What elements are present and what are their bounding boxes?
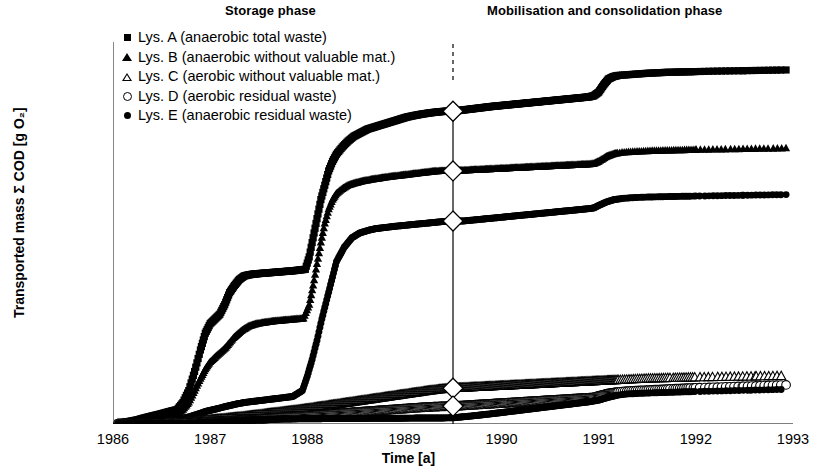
x-axis-title: Time [a] xyxy=(0,450,817,466)
mobilisation-phase-label: Mobilisation and consolidation phase xyxy=(487,3,722,18)
y-axis-title: Transported mass Σ COD [g O₂] xyxy=(11,108,27,318)
x-tick-label: 1993 xyxy=(777,431,809,447)
x-tick-label: 1992 xyxy=(680,431,712,447)
x-tick-label: 1987 xyxy=(194,431,226,447)
x-tick-label: 1986 xyxy=(97,431,129,447)
x-tick-label: 1991 xyxy=(583,431,615,447)
x-tick-label: 1988 xyxy=(291,431,323,447)
filled-square-icon xyxy=(119,34,135,41)
chart-root: Storage phase Mobilisation and consolida… xyxy=(0,0,817,474)
chart-canvas xyxy=(113,42,793,424)
storage-phase-label: Storage phase xyxy=(225,3,316,18)
x-tick-label: 1990 xyxy=(485,431,517,447)
x-tick-label: 1989 xyxy=(388,431,420,447)
plot-area xyxy=(113,42,793,424)
